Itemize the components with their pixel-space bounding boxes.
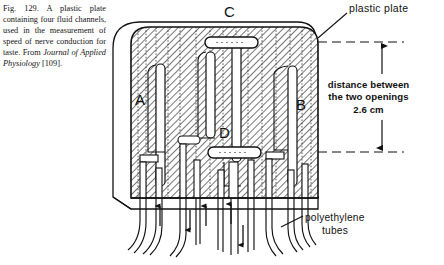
label-distance-annotation: distance between the two openings 2.6 cm (303, 79, 434, 116)
channel-letter-c: C (224, 3, 235, 20)
tubes-line-1: polyethylene (305, 212, 365, 223)
label-plastic-plate: plastic plate (349, 2, 408, 14)
channel-letter-b: B (296, 96, 306, 113)
distance-line-2: the two openings (328, 91, 408, 102)
leader-plastic-plate (318, 13, 347, 38)
distance-line-1: distance between (328, 79, 410, 90)
caption-number: Fig. 129. (3, 4, 39, 13)
channel-letter-d: D (219, 124, 230, 141)
caption-text-2: [109]. (40, 59, 62, 68)
channel-letter-a: A (135, 91, 145, 108)
distance-value: 2.6 cm (353, 104, 383, 115)
opening-upper (205, 37, 258, 48)
label-polyethylene-tubes: polyethylene tubes (305, 211, 425, 237)
opening-lower (208, 147, 261, 158)
tubes-line-2: tubes (305, 224, 425, 237)
figure-caption: Fig. 129. A plastic plate containing fou… (3, 3, 106, 70)
polyethylene-tube-bundle (128, 198, 316, 257)
leader-polyethylene-tubes (281, 216, 303, 227)
